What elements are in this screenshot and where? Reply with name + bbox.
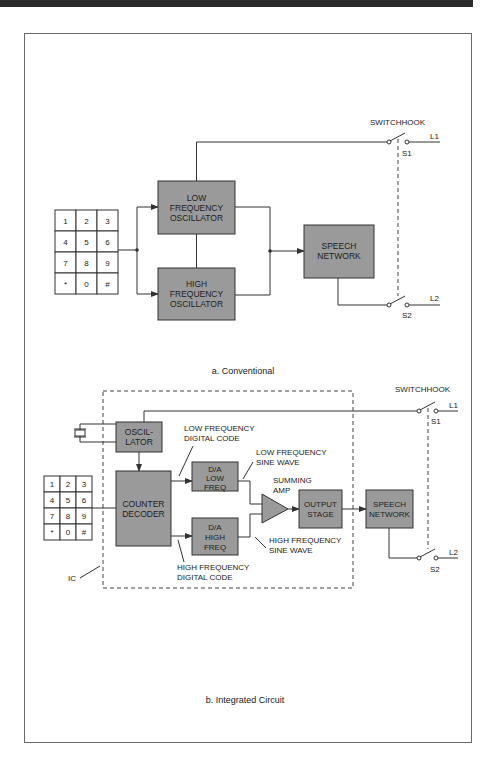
low-digital-code-label-2: DIGITAL CODE bbox=[184, 434, 240, 443]
counter-label-2: DECODER bbox=[122, 509, 165, 519]
key-star: * bbox=[50, 528, 53, 537]
key-0: 0 bbox=[66, 528, 71, 537]
key-9: 9 bbox=[82, 512, 87, 521]
speech-label-2: NETWORK bbox=[317, 251, 361, 261]
high-digital-code-label-2: DIGITAL CODE bbox=[177, 573, 233, 582]
counter-label-1: COUNTER bbox=[122, 499, 164, 509]
key-2: 2 bbox=[84, 217, 89, 226]
s1-label-a: S1 bbox=[402, 149, 412, 158]
l2-label-b: L2 bbox=[449, 548, 458, 557]
osc-label-2: LATOR bbox=[125, 437, 153, 447]
key-0: 0 bbox=[84, 280, 89, 289]
output-stage-block bbox=[299, 490, 342, 528]
high-osc-label-2: FREQUENCY bbox=[170, 289, 224, 299]
key-9: 9 bbox=[105, 259, 110, 268]
high-osc-label-1: HIGH bbox=[186, 279, 207, 289]
keypad-b: 1 2 3 4 5 6 7 8 9 * 0 # bbox=[44, 476, 92, 540]
key-4: 4 bbox=[63, 238, 68, 247]
key-6: 6 bbox=[82, 496, 87, 505]
high-sine-wave-label-1: HIGH FREQUENCY bbox=[269, 536, 342, 545]
l1-label-b: L1 bbox=[449, 401, 458, 410]
key-6: 6 bbox=[105, 238, 110, 247]
s2-label-a: S2 bbox=[402, 311, 412, 320]
summing-amp-label-1: SUMMING bbox=[273, 476, 312, 485]
speech-b-label-2: NETWORK bbox=[369, 510, 411, 519]
keypad-a: 1 2 3 4 5 6 7 8 9 * 0 # bbox=[55, 210, 118, 294]
key-8: 8 bbox=[84, 259, 89, 268]
caption-a: a. Conventional bbox=[212, 366, 275, 376]
da-high-label-2: HIGH bbox=[205, 533, 225, 542]
key-hash: # bbox=[105, 280, 110, 289]
key-star: * bbox=[64, 280, 67, 289]
speech-label-1: SPEECH bbox=[322, 241, 357, 251]
s2-label-b: S2 bbox=[430, 565, 440, 574]
switchhook-label-a: SWITCHHOOK bbox=[370, 118, 426, 127]
osc-label-1: OSCIL- bbox=[125, 427, 154, 437]
key-2: 2 bbox=[66, 480, 71, 489]
part-b-integrated-circuit: IC 1 2 3 4 5 6 7 8 9 * 0 # OSCIL- bbox=[44, 385, 458, 705]
low-osc-label-2: FREQUENCY bbox=[170, 203, 224, 213]
summing-amp-triangle bbox=[262, 494, 288, 523]
speech-network-block-b bbox=[366, 490, 413, 528]
speech-b-label-1: SPEECH bbox=[373, 500, 406, 509]
tone-dialer-diagram: 1 2 3 4 5 6 7 8 9 * 0 # LOW FREQUENCY OS… bbox=[0, 0, 490, 758]
l2-label-a: L2 bbox=[430, 294, 439, 303]
high-sine-wave-label-2: SINE WAVE bbox=[269, 546, 313, 555]
ic-label: IC bbox=[68, 574, 76, 583]
key-4: 4 bbox=[50, 496, 55, 505]
high-osc-label-3: OSCILLATOR bbox=[170, 299, 223, 309]
low-digital-code-label-1: LOW FREQUENCY bbox=[184, 424, 255, 433]
output-label-2: STAGE bbox=[307, 510, 334, 519]
key-7: 7 bbox=[50, 512, 55, 521]
da-low-label-1: D/A bbox=[208, 465, 222, 474]
key-1: 1 bbox=[63, 217, 68, 226]
key-3: 3 bbox=[82, 480, 87, 489]
key-3: 3 bbox=[105, 217, 110, 226]
high-digital-code-label-1: HIGH FREQUENCY bbox=[177, 563, 250, 572]
da-low-label-3: FREQ bbox=[204, 483, 226, 492]
key-1: 1 bbox=[50, 480, 55, 489]
key-hash: # bbox=[82, 528, 87, 537]
da-high-label-1: D/A bbox=[208, 523, 222, 532]
low-osc-label-1: LOW bbox=[187, 193, 206, 203]
switchhook-label-b: SWITCHHOOK bbox=[395, 385, 451, 394]
key-7: 7 bbox=[63, 259, 68, 268]
key-8: 8 bbox=[66, 512, 71, 521]
low-sine-wave-label-2: SINE WAVE bbox=[256, 458, 300, 467]
summing-amp-label-2: AMP bbox=[273, 486, 290, 495]
key-5: 5 bbox=[84, 238, 89, 247]
l1-label-a: L1 bbox=[430, 132, 439, 141]
caption-b: b. Integrated Circuit bbox=[206, 695, 285, 705]
low-sine-wave-label-1: LOW FREQUENCY bbox=[256, 448, 327, 457]
low-osc-label-3: OSCILLATOR bbox=[170, 213, 223, 223]
output-label-1: OUTPUT bbox=[304, 500, 337, 509]
s1-label-b: S1 bbox=[431, 417, 441, 426]
part-a-conventional: 1 2 3 4 5 6 7 8 9 * 0 # LOW FREQUENCY OS… bbox=[55, 118, 440, 376]
key-5: 5 bbox=[66, 496, 71, 505]
da-high-label-3: FREQ bbox=[204, 543, 226, 552]
da-low-label-2: LOW bbox=[206, 474, 225, 483]
